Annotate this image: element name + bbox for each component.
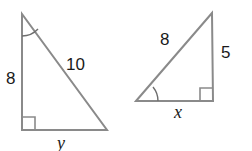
left-triangle: 8 10 y [6, 14, 107, 151]
right-triangle-label-vertical-leg: 5 [221, 43, 230, 62]
left-triangle-label-vertical-leg: 8 [6, 69, 15, 88]
right-triangle-angle-arc [153, 87, 158, 101]
left-triangle-right-angle-marker [22, 117, 35, 130]
right-triangle-right-angle-marker [200, 88, 213, 101]
geometry-figure: 8 10 y 8 5 x [0, 0, 252, 151]
right-triangle-label-horizontal-leg: x [173, 102, 182, 122]
left-triangle-label-horizontal-leg: y [55, 133, 65, 151]
figure-canvas: 8 10 y 8 5 x [0, 0, 252, 151]
right-triangle-label-hypotenuse: 8 [160, 30, 169, 49]
left-triangle-label-hypotenuse: 10 [66, 55, 85, 74]
right-triangle: 8 5 x [136, 13, 230, 122]
